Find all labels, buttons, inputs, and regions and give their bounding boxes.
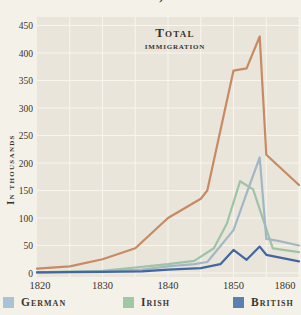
x-tick-label: 1860: [275, 280, 296, 291]
y-tick-label: 200: [19, 159, 34, 169]
y-axis-label: In thousands: [5, 129, 16, 211]
annotation-line1: Total: [113, 26, 237, 40]
legend-label-irish: Irish: [141, 296, 170, 308]
y-tick-label: 100: [19, 214, 34, 224]
y-tick-label: 350: [19, 76, 34, 86]
annotation-line2: immigration: [113, 40, 237, 51]
legend-item-german: German: [3, 296, 66, 308]
legend-label-british: British: [251, 296, 294, 308]
y-tick-label: 300: [19, 104, 34, 114]
legend-swatch-german: [3, 297, 14, 308]
y-tick-label: 250: [19, 131, 34, 141]
y-tick-label: 0: [28, 269, 33, 279]
y-tick-label: 50: [24, 241, 34, 251]
y-tick-label: 150: [19, 186, 34, 196]
legend-label-german: German: [21, 296, 66, 308]
y-tick-label: 450: [19, 21, 34, 31]
x-tick-label: 1840: [158, 280, 179, 291]
x-tick-label: 1850: [223, 280, 244, 291]
legend-swatch-irish: [123, 297, 134, 308]
legend: German Irish British: [0, 295, 301, 313]
x-tick-label: 1820: [30, 280, 51, 291]
legend-item-irish: Irish: [123, 296, 170, 308]
y-tick-label: 400: [19, 49, 34, 59]
total-immigration-annotation: Total immigration: [113, 26, 237, 51]
x-tick-label: 1830: [92, 280, 113, 291]
legend-item-british: British: [233, 296, 294, 308]
legend-swatch-british: [233, 297, 244, 308]
